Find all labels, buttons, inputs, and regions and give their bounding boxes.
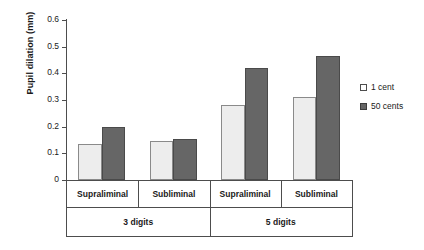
bar-fifty-cents [173, 139, 196, 180]
category-label: Subliminal [138, 181, 209, 207]
bar-group [281, 20, 353, 180]
bar-fifty-cents [245, 68, 268, 180]
bar-series-container [66, 20, 352, 180]
bar-fifty-cents [102, 127, 125, 180]
legend-label: 1 cent [371, 82, 394, 92]
category-divider-2 [281, 181, 282, 207]
y-tick-label: 0 [54, 174, 59, 184]
bar-group [138, 20, 210, 180]
legend-swatch-icon [360, 84, 367, 91]
category-label: Supraliminal [210, 181, 281, 207]
y-tick-label: 0.3 [47, 94, 59, 104]
category-label-table: SupraliminalSubliminalSupraliminalSublim… [66, 181, 353, 237]
bar-chart: Pupil dilation (mm) 0.60.50.40.30.20.10 … [0, 0, 424, 250]
bar-one-cent [78, 144, 101, 180]
legend-label: 50 cents [371, 101, 403, 111]
plot-area: 0.60.50.40.30.20.10 [66, 20, 352, 180]
bar-group [209, 20, 281, 180]
group-label: 5 digits [210, 207, 353, 236]
y-axis-title: Pupil dilation (mm) [25, 0, 35, 128]
category-divider-1 [138, 181, 139, 207]
bar-one-cent [221, 105, 244, 180]
y-tick-label: 0.4 [47, 67, 59, 77]
y-tick-label: 0.6 [47, 14, 59, 24]
bar-one-cent [150, 141, 173, 180]
y-tick-label: 0.1 [47, 147, 59, 157]
group-divider [210, 181, 211, 236]
category-label: Subliminal [281, 181, 352, 207]
legend-item[interactable]: 1 cent [360, 82, 403, 92]
chart-legend: 1 cent50 cents [360, 82, 403, 120]
bar-group [66, 20, 138, 180]
legend-item[interactable]: 50 cents [360, 101, 403, 111]
y-tick-label: 0.5 [47, 41, 59, 51]
group-label: 3 digits [67, 207, 210, 236]
category-label: Supraliminal [67, 181, 138, 207]
bar-fifty-cents [316, 56, 339, 180]
y-tick-label: 0.2 [47, 121, 59, 131]
legend-swatch-icon [360, 103, 367, 110]
bar-one-cent [293, 97, 316, 180]
